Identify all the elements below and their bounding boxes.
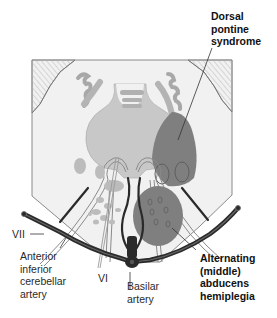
label-cn6: VI bbox=[98, 272, 108, 285]
medial-nucleus-bar-3 bbox=[122, 104, 142, 108]
label-basilar-artery: Basilar artery bbox=[127, 280, 159, 305]
label-aica: Anterior inferior cerebellar artery bbox=[20, 250, 66, 300]
aica-end-left bbox=[22, 212, 27, 217]
medial-nucleus-bar-2 bbox=[122, 98, 142, 102]
label-dorsal-pontine-syndrome: Dorsal pontine syndrome bbox=[211, 10, 261, 48]
medial-nucleus-bar-1 bbox=[120, 90, 144, 95]
basilar-artery bbox=[125, 236, 139, 268]
pons-diagram: Dorsal pontine syndrome VII Anterior inf… bbox=[0, 0, 277, 318]
label-cn7: VII bbox=[12, 228, 25, 241]
aica-end-right bbox=[236, 206, 241, 211]
label-alternating-abducens-hemiplegia: Alternating (middle) abducens hemiplegia bbox=[200, 252, 255, 302]
